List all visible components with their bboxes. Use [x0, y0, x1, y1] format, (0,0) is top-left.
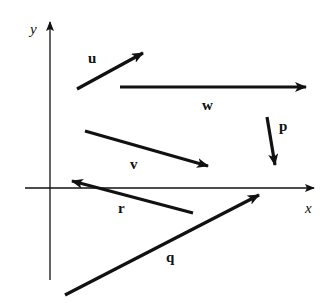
- vector-v: [85, 131, 208, 166]
- vector-diagram: y x u w p v r q: [0, 0, 334, 303]
- vector-p: [267, 117, 275, 165]
- vector-u: [77, 53, 143, 89]
- vector-q-label: q: [166, 249, 175, 265]
- vector-w-label: w: [202, 97, 213, 113]
- y-axis-label: y: [28, 21, 37, 37]
- vector-p-label: p: [279, 118, 287, 134]
- vector-v-label: v: [130, 156, 138, 172]
- vector-r: [72, 181, 193, 213]
- vector-r-label: r: [118, 200, 125, 216]
- vector-q: [65, 195, 259, 295]
- vector-u-label: u: [88, 50, 96, 66]
- x-axis-label: x: [304, 200, 312, 216]
